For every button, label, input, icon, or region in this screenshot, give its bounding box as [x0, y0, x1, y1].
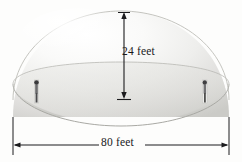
person-left — [34, 80, 39, 103]
dome-shape — [13, 8, 229, 126]
width-arrow-left — [14, 142, 21, 147]
person-right — [203, 80, 208, 103]
width-arrow-right — [222, 142, 229, 147]
width-dimension-label: 80 feet — [101, 136, 134, 148]
height-dimension-label: 24 feet — [122, 45, 155, 57]
dome-diagram-figure: 24 feet 80 feet — [0, 0, 242, 162]
